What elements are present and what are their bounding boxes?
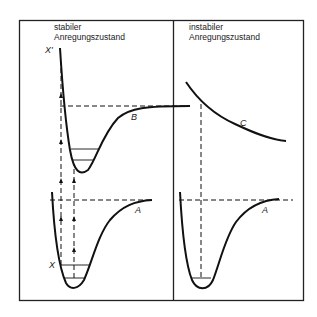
curve-label-c: C [240,118,247,128]
frame [20,21,304,301]
figure: stabiler Anregungszustand instabiler Anr… [0,0,317,317]
left-title-line2: Anregungszustand [54,32,125,42]
curve-label-a-left: A [135,205,141,215]
state-label-excited: X' [45,45,53,55]
state-label-ground: X [49,260,55,270]
arrow-icon [59,216,63,221]
curve-label-b: B [131,112,137,122]
arrow-icon [59,139,63,144]
left-title-line1: stabiler [54,22,81,32]
arrow-icon [59,178,63,183]
right-title-line1: instabiler [189,22,223,32]
arrow-icon [72,247,76,252]
right-title-line2: Anregungszustand [189,32,260,42]
curve-label-a-right: A [262,205,268,215]
arrow-icon [72,178,76,183]
curve-b [60,48,190,173]
arrow-icon [72,216,76,221]
